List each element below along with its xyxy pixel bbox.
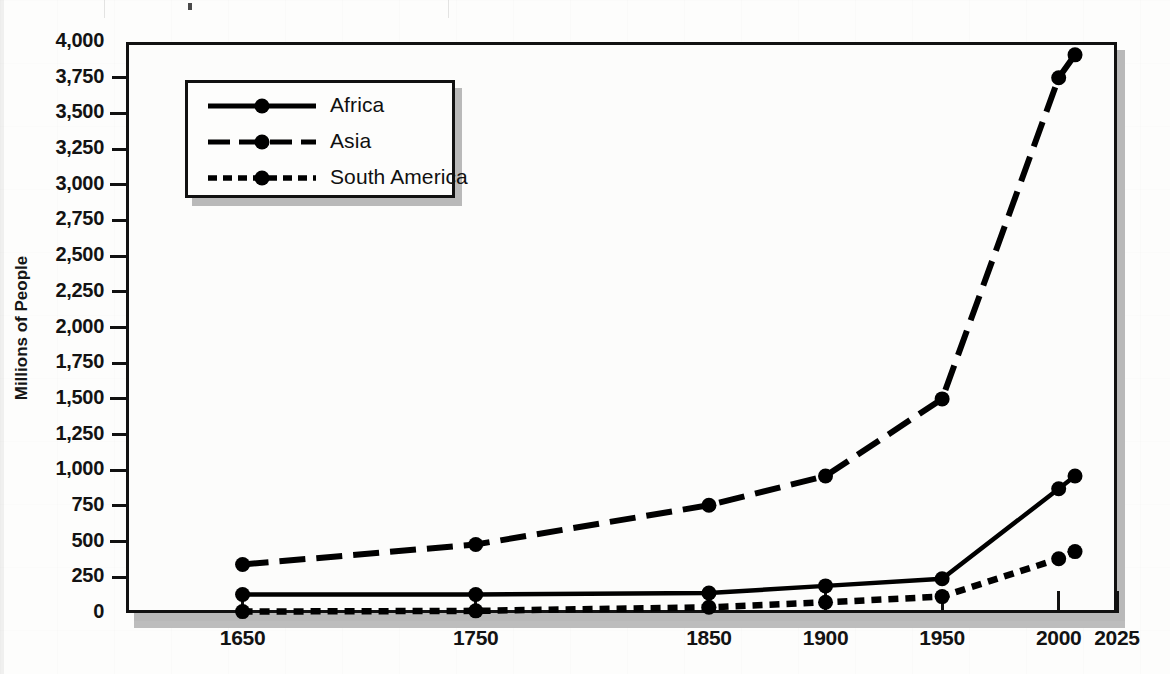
data-point-1900 — [818, 578, 833, 593]
chart-page: Millions of People 02505007501,0001,2501… — [0, 0, 1170, 674]
data-point-1650 — [235, 557, 250, 572]
legend-label-africa: Africa — [330, 93, 384, 117]
legend-label-south-america: South America — [330, 165, 468, 189]
data-point-1850 — [701, 498, 716, 513]
data-point-1750 — [468, 537, 483, 552]
data-point-1900 — [818, 595, 833, 610]
series-line — [243, 552, 1075, 612]
dashed-line-key — [206, 125, 318, 159]
legend-item-africa[interactable]: Africa — [188, 89, 452, 123]
data-point-1900 — [818, 468, 833, 483]
data-point-1750 — [468, 587, 483, 602]
legend-label-asia: Asia — [330, 129, 371, 153]
series-africa — [235, 468, 1082, 601]
data-point-2007 — [1068, 47, 1083, 62]
data-point-1750 — [468, 603, 483, 618]
data-point-1850 — [701, 586, 716, 601]
legend-item-asia[interactable]: Asia — [188, 125, 452, 159]
data-point-1650 — [235, 587, 250, 602]
dotted-line-key — [206, 161, 318, 195]
chart-legend[interactable]: Africa Asia South America — [185, 80, 455, 198]
data-point-2000 — [1051, 481, 1066, 496]
data-point-2007 — [1068, 544, 1083, 559]
series-line — [243, 476, 1075, 594]
data-point-2000 — [1051, 551, 1066, 566]
data-point-1650 — [235, 604, 250, 619]
data-point-1950 — [935, 571, 950, 586]
legend-item-south-america[interactable]: South America — [188, 161, 452, 195]
data-point-2007 — [1068, 468, 1083, 483]
data-point-1950 — [935, 391, 950, 406]
data-point-1850 — [701, 600, 716, 615]
data-point-1950 — [935, 589, 950, 604]
data-point-2000 — [1051, 70, 1066, 85]
solid-line-key — [206, 89, 318, 123]
chart-series-layer — [0, 0, 1170, 674]
